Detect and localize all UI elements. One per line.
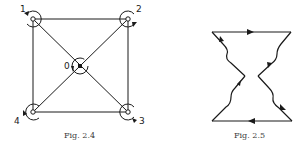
right-upper-side: [258, 32, 291, 76]
figure-2-5: Fig. 2.5: [153, 0, 306, 149]
node-label-1: 1: [20, 5, 26, 14]
figure-caption: Fig. 2.4: [64, 131, 95, 140]
arrow-left-icon: [248, 118, 255, 124]
arrow-down-right-icon: [280, 104, 286, 110]
hourglass-loop-diagram: [153, 0, 306, 149]
left-upper-side: [212, 32, 245, 76]
arrowhead-icon: [132, 118, 137, 123]
square-graph-diagram: [0, 0, 153, 149]
arrow-up-left-icon: [219, 36, 224, 42]
node-label-0: 0: [64, 62, 70, 71]
node-label-2: 2: [136, 5, 142, 14]
node-label-4: 4: [14, 117, 20, 126]
arrow-right-icon: [247, 29, 254, 35]
figure-caption: Fig. 2.5: [234, 131, 265, 140]
figure-2-4: 1 2 3 4 0 Fig. 2.4: [0, 0, 153, 149]
node-label-3: 3: [139, 117, 145, 126]
right-lower-side: [258, 76, 292, 121]
arrowhead-icon: [132, 22, 137, 27]
